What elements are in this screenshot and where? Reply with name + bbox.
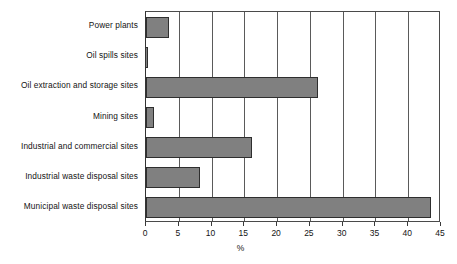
bar <box>146 167 200 188</box>
bar <box>146 107 154 128</box>
tick-label: 10 <box>198 228 224 238</box>
tick-mark <box>309 222 310 226</box>
category-label: Power plants <box>0 21 138 30</box>
bar <box>146 197 431 218</box>
category-label: Industrial waste disposal sites <box>0 172 138 181</box>
bar-chart: Power plantsOil spills sitesOil extracti… <box>0 0 457 264</box>
bar <box>146 47 148 68</box>
x-axis-tick-marks <box>145 222 441 227</box>
tick-mark <box>407 222 408 226</box>
bar <box>146 77 318 98</box>
category-label: Municipal waste disposal sites <box>0 202 138 211</box>
tick-mark <box>440 222 441 226</box>
tick-label: 40 <box>394 228 420 238</box>
category-label: Oil extraction and storage sites <box>0 81 138 90</box>
tick-label: 15 <box>230 228 256 238</box>
category-label: Industrial and commercial sites <box>0 142 138 151</box>
tick-label: 20 <box>263 228 289 238</box>
gridline <box>343 12 344 221</box>
tick-mark <box>342 222 343 226</box>
tick-label: 25 <box>296 228 322 238</box>
x-axis-title: % <box>0 243 457 253</box>
tick-label: 35 <box>361 228 387 238</box>
tick-label: 0 <box>132 228 158 238</box>
gridline <box>277 12 278 221</box>
tick-mark <box>211 222 212 226</box>
gridline <box>310 12 311 221</box>
tick-mark <box>145 222 146 226</box>
bar <box>146 137 252 158</box>
tick-label: 30 <box>329 228 355 238</box>
gridline <box>408 12 409 221</box>
tick-mark <box>374 222 375 226</box>
gridline <box>244 12 245 221</box>
gridline <box>179 12 180 221</box>
gridline <box>212 12 213 221</box>
x-axis-title-text: % <box>237 243 245 253</box>
category-label: Mining sites <box>0 112 138 121</box>
tick-mark <box>243 222 244 226</box>
tick-mark <box>178 222 179 226</box>
tick-mark <box>276 222 277 226</box>
category-label: Oil spills sites <box>0 51 138 60</box>
tick-label: 5 <box>165 228 191 238</box>
plot-area <box>145 11 440 222</box>
tick-label: 45 <box>427 228 453 238</box>
y-axis-category-labels: Power plantsOil spills sitesOil extracti… <box>0 11 142 222</box>
bar <box>146 17 169 38</box>
gridline <box>375 12 376 221</box>
x-axis-tick-labels: 051015202530354045 <box>0 228 457 240</box>
